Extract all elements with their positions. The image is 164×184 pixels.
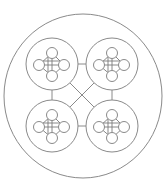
node-bottom [47, 71, 58, 82]
node-right [59, 60, 70, 71]
node-right [119, 122, 130, 133]
node-left [94, 122, 105, 133]
node-left [94, 60, 105, 71]
node-left [34, 60, 45, 71]
node-left [34, 122, 45, 133]
network-diagram [0, 0, 164, 184]
node-bottom [107, 133, 118, 144]
node-bottom [107, 71, 118, 82]
node-right [59, 122, 70, 133]
node-right [119, 60, 130, 71]
node-top [107, 110, 118, 121]
node-bottom [47, 133, 58, 144]
node-top [107, 48, 118, 59]
node-top [47, 110, 58, 121]
node-top [47, 48, 58, 59]
background [0, 0, 164, 184]
